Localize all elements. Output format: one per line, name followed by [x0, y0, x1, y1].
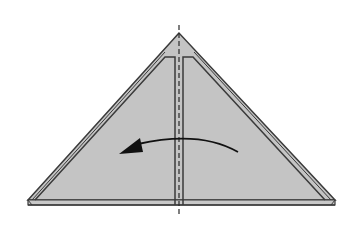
outer-triangle — [28, 33, 335, 200]
fold-diagram-svg — [0, 0, 353, 243]
origami-diagram — [0, 0, 353, 243]
